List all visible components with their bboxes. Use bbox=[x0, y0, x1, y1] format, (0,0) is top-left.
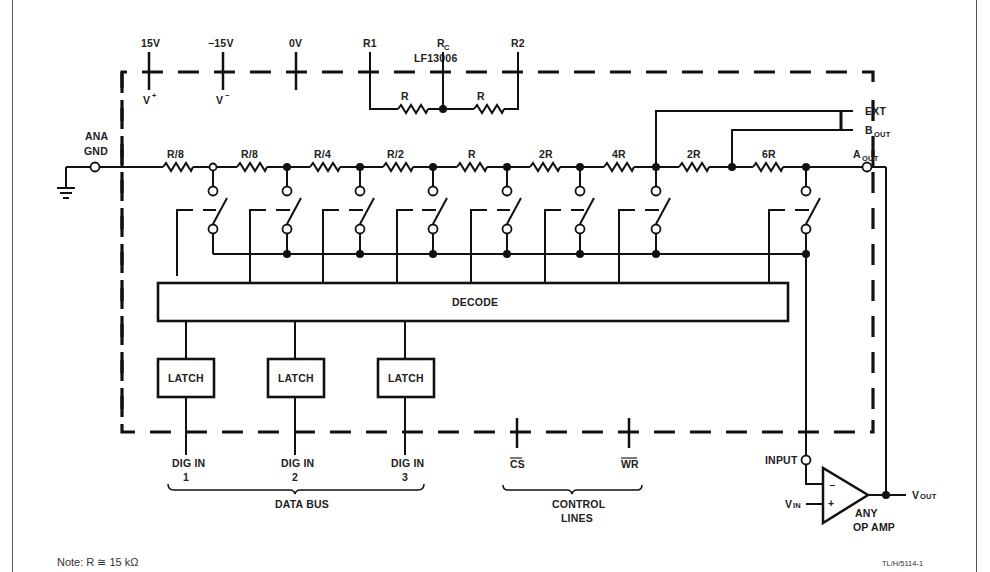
svg-text:0V: 0V bbox=[289, 37, 302, 49]
svg-text:R/8: R/8 bbox=[167, 148, 184, 160]
svg-text:−: − bbox=[225, 91, 230, 100]
pin-r2: R2 bbox=[511, 37, 525, 49]
feedback-resistor-2-label: R bbox=[477, 90, 485, 102]
svg-text:2R: 2R bbox=[539, 148, 553, 160]
svg-text:R/2: R/2 bbox=[387, 148, 404, 160]
feedback-network: R1 R C R2 R R bbox=[363, 37, 525, 113]
svg-text:LATCH: LATCH bbox=[168, 372, 204, 384]
control-lines-label: CONTROL bbox=[552, 498, 606, 510]
svg-text:ANA: ANA bbox=[85, 130, 109, 142]
dig-in-2-label: DIG IN bbox=[281, 457, 314, 469]
pin-r1: R1 bbox=[363, 37, 377, 49]
svg-text:1: 1 bbox=[183, 471, 189, 483]
latch-1: LATCH bbox=[158, 321, 214, 455]
feedback-resistor-1-label: R bbox=[401, 90, 409, 102]
svg-text:IN: IN bbox=[793, 501, 801, 510]
svg-text:2: 2 bbox=[292, 471, 298, 483]
dac-schematic: LF13006 15V V + −15V V − 0V R1 R C R2 R … bbox=[0, 0, 990, 572]
svg-text:ANY: ANY bbox=[855, 507, 878, 519]
svg-text:LINES: LINES bbox=[561, 512, 593, 524]
data-bus-brace bbox=[168, 484, 424, 494]
svg-text:R/4: R/4 bbox=[314, 148, 331, 160]
data-bus-label: DATA BUS bbox=[275, 498, 329, 510]
decode-label: DECODE bbox=[452, 296, 498, 308]
svg-text:+: + bbox=[828, 497, 834, 509]
vin-label: V bbox=[785, 498, 792, 510]
svg-text:R/8: R/8 bbox=[241, 148, 258, 160]
svg-text:OP AMP: OP AMP bbox=[853, 521, 895, 533]
dig-in-1-label: DIG IN bbox=[172, 457, 205, 469]
svg-text:15V: 15V bbox=[141, 37, 160, 49]
svg-text:V: V bbox=[216, 94, 223, 106]
control-lines-brace bbox=[503, 485, 642, 494]
latch-2: LATCH bbox=[268, 321, 324, 455]
supply-pin-0v: 0V bbox=[289, 37, 302, 90]
svg-text:OUT: OUT bbox=[862, 154, 879, 163]
svg-text:+: + bbox=[152, 91, 157, 100]
svg-text:3: 3 bbox=[402, 471, 408, 483]
ana-gnd: ANA GND bbox=[57, 130, 163, 198]
chip-label: LF13006 bbox=[414, 52, 457, 64]
svg-text:C: C bbox=[444, 43, 450, 52]
svg-text:OUT: OUT bbox=[920, 492, 937, 501]
pin-wr: WR bbox=[621, 458, 639, 470]
svg-text:−15V: −15V bbox=[208, 37, 234, 49]
svg-text:LATCH: LATCH bbox=[388, 372, 424, 384]
input-pin-label: INPUT bbox=[765, 454, 798, 466]
svg-text:6R: 6R bbox=[762, 148, 776, 160]
svg-text:OUT: OUT bbox=[874, 130, 891, 139]
vout-label: V bbox=[912, 489, 919, 501]
svg-text:4R: 4R bbox=[612, 148, 626, 160]
pin-cs: CS bbox=[510, 458, 525, 470]
resistance-note: Note: R ≅ 15 kΩ bbox=[57, 556, 138, 568]
resistor-ladder: A OUT R/8 R/8 R/4 R/2 R 2R 4R 2R 6R bbox=[163, 148, 886, 172]
dig-in-3-label: DIG IN bbox=[391, 457, 424, 469]
svg-text:LATCH: LATCH bbox=[278, 372, 314, 384]
svg-text:V: V bbox=[143, 94, 150, 106]
pin-bout: B bbox=[865, 124, 873, 136]
svg-text:GND: GND bbox=[84, 145, 108, 157]
svg-text:−: − bbox=[829, 479, 835, 491]
pin-aout: A bbox=[853, 148, 861, 160]
latch-3: LATCH bbox=[378, 321, 434, 455]
svg-text:R: R bbox=[468, 148, 476, 160]
chip-boundary bbox=[122, 72, 873, 432]
svg-text:2R: 2R bbox=[687, 148, 701, 160]
pin-ext: EXT bbox=[865, 105, 886, 117]
op-amp: INPUT − + V IN V OUT ANY OP AMP bbox=[765, 167, 937, 533]
figure-reference: TL/H/5114-1 bbox=[882, 559, 923, 568]
